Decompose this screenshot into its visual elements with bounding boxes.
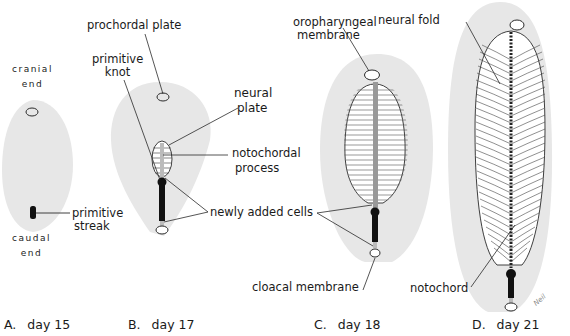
label-neural-plate: neural plate [234, 86, 272, 116]
primitive-streak-c [372, 214, 378, 242]
label-primitive-streak: primitive streak [72, 207, 123, 233]
notochordal-process-c [373, 82, 378, 208]
primitive-streak-a [30, 206, 36, 219]
embryo-day-21: Neil [448, 2, 552, 312]
label-notochord: notochord [410, 282, 468, 295]
label-caudal-end-line1: caudal [12, 231, 51, 246]
label-primitive-knot-line2: knot [92, 66, 143, 79]
embryonic-disc-a [2, 100, 73, 232]
cloacal-membrane-c [370, 249, 380, 257]
label-cranial-end: cranial end [12, 62, 53, 92]
label-neural-plate-line2: plate [234, 101, 272, 116]
caption-panel-a: A.day 15 [4, 317, 70, 332]
label-primitive-streak-line2: streak [72, 220, 123, 233]
caption-day-c: day 18 [338, 317, 381, 332]
label-prochordal-plate: prochordal plate [87, 19, 181, 32]
caption-panel-d: D.day 21 [472, 317, 539, 332]
caption-letter-c: C. [314, 317, 327, 332]
caption-panel-b: B.day 17 [128, 317, 194, 332]
cloacal-membrane-b [156, 226, 168, 234]
label-caudal-end: caudal end [12, 231, 51, 261]
caption-day-a: day 15 [27, 317, 70, 332]
cloacal-membrane-d [505, 303, 517, 311]
label-oropharyngeal-membrane-line2: membrane [293, 29, 377, 42]
label-oropharyngeal-membrane: oropharyngeal membrane [293, 16, 377, 42]
embryo-day-18 [317, 28, 433, 290]
label-caudal-end-line2: end [12, 246, 51, 261]
caption-letter-b: B. [128, 317, 141, 332]
label-newly-added-cells: newly added cells [210, 206, 313, 219]
label-cranial-end-line2: end [12, 77, 53, 92]
label-cranial-end-line1: cranial [12, 62, 53, 77]
label-neural-plate-line1: neural [234, 86, 272, 101]
caption-day-d: day 21 [497, 317, 540, 332]
primitive-streak-b [159, 184, 165, 221]
label-notochordal-process-line1: notochordal [232, 146, 301, 161]
caption-day-b: day 17 [152, 317, 195, 332]
caption-letter-a: A. [4, 317, 16, 332]
label-neural-fold: neural fold [378, 14, 440, 27]
primitive-streak-d [508, 276, 514, 298]
label-notochordal-process-line2: process [232, 161, 301, 176]
oropharyngeal-membrane-d [510, 20, 524, 30]
caption-letter-d: D. [472, 317, 486, 332]
caption-panel-c: C.day 18 [314, 317, 381, 332]
label-notochordal-process: notochordal process [232, 146, 301, 176]
artist-signature: Neil [532, 293, 547, 308]
label-primitive-knot: primitive knot [92, 53, 143, 79]
label-cloacal-membrane: cloacal membrane [252, 281, 359, 294]
oropharyngeal-membrane-c [365, 70, 380, 80]
embryo-day-15 [2, 100, 73, 232]
